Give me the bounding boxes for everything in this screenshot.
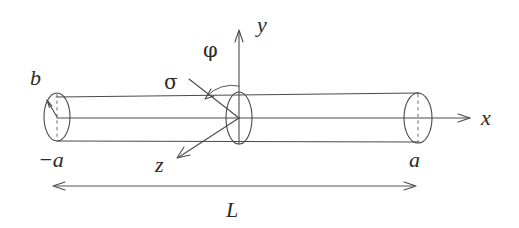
- phi-angle-arc: [205, 85, 239, 99]
- left-end-label: −a: [38, 147, 64, 172]
- y-axis: [235, 30, 243, 144]
- right-end-label: a: [409, 147, 420, 172]
- cylinder-coordinate-diagram: y x z φ σ b −a a L: [0, 0, 519, 228]
- cylinder-top-edge: [56, 93, 419, 97]
- left-end-cap: [44, 93, 70, 141]
- z-axis-label: z: [154, 152, 164, 177]
- sigma-label: σ: [164, 70, 178, 94]
- phi-label: φ: [203, 38, 218, 62]
- length-dimension: [53, 182, 416, 190]
- x-axis-label: x: [480, 105, 491, 130]
- length-label: L: [225, 197, 238, 222]
- radius-b-label: b: [30, 65, 41, 90]
- z-axis: [177, 118, 239, 158]
- diagram-canvas: y x z φ σ b −a a L: [0, 0, 519, 228]
- y-axis-label: y: [255, 12, 267, 37]
- cylinder-bottom-edge: [57, 141, 419, 142]
- z-axis-arrowhead: [177, 147, 190, 158]
